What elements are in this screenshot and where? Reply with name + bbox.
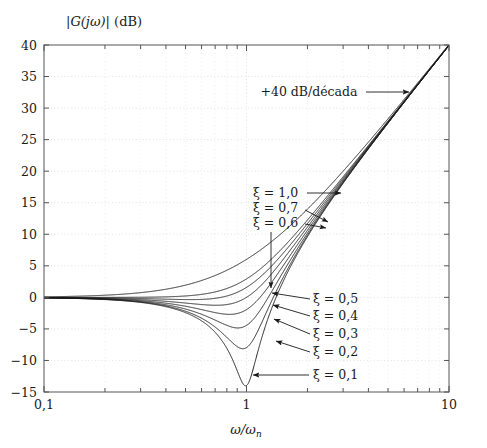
annotation-slope-label: +40 dB/década [260,84,358,99]
x-tick-label: 0,1 [34,397,54,412]
y-tick-label: −5 [19,321,37,336]
annotation-zeta-0-1-label: ξ = 0,1 [313,367,358,382]
annotation-zeta-0-2-label: ξ = 0,2 [313,344,358,359]
x-tick-label: 10 [441,397,457,412]
bode-magnitude-figure: 4035302520151050−5−10−15 0,1110 |G(jω)| … [0,0,487,448]
y-tick-label: 10 [21,227,37,242]
annotation-zeta-0-4-label: ξ = 0,4 [313,308,358,323]
figure-background [0,0,487,448]
y-axis-title: |G(jω)| (dB) [66,14,142,29]
y-tick-label: 15 [21,195,37,210]
y-tick-label: 40 [21,38,37,53]
y-tick-label: 35 [21,69,37,84]
plot-canvas: 4035302520151050−5−10−15 0,1110 |G(jω)| … [0,0,487,448]
y-tick-label: −10 [11,353,37,368]
y-tick-label: 5 [29,258,37,273]
y-tick-label: −15 [11,385,37,400]
annotation-zeta-1-0-label: ξ = 1,0 [253,185,298,200]
annotation-zeta-0-7-label: ξ = 0,7 [253,200,298,215]
x-tick-label: 1 [243,397,251,412]
annotation-zeta-0-5-label: ξ = 0,5 [313,291,358,306]
y-tick-label: 20 [21,164,37,179]
annotation-zeta-0-3-label: ξ = 0,3 [313,326,358,341]
y-tick-label: 30 [21,101,37,116]
y-tick-label: 25 [21,132,37,147]
y-tick-label: 0 [29,290,37,305]
annotation-zeta-0-6-label: ξ = 0,6 [253,215,298,230]
